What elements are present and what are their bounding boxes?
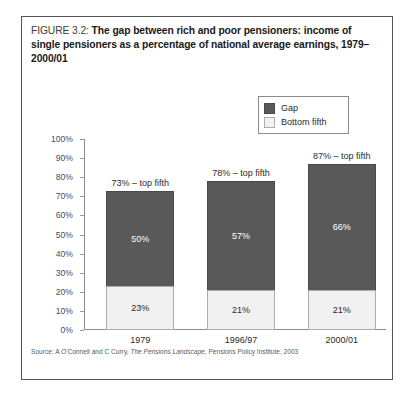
y-axis-line bbox=[84, 139, 85, 330]
y-axis-tick-label: 30% bbox=[56, 268, 73, 278]
x-axis-category-label: 2000/01 bbox=[325, 335, 358, 345]
y-axis-tick: 0% bbox=[80, 330, 84, 331]
figure-label: FIGURE 3.2: bbox=[31, 25, 89, 36]
y-axis-tick: 30% bbox=[80, 273, 84, 274]
bar-segment-value: 66% bbox=[333, 222, 351, 232]
y-axis-tick-label: 40% bbox=[56, 249, 73, 259]
y-axis-tick-label: 20% bbox=[56, 287, 73, 297]
source-publication: The Pensions Landscape bbox=[130, 348, 204, 355]
y-axis-tick: 100% bbox=[80, 139, 84, 140]
y-axis-tick-label: 80% bbox=[56, 172, 73, 182]
bar-segment-value: 23% bbox=[131, 303, 149, 313]
y-axis-tick: 40% bbox=[80, 254, 84, 255]
legend-label-bottom-fifth: Bottom fifth bbox=[281, 117, 327, 127]
chart-legend: Gap Bottom fifth bbox=[258, 96, 349, 134]
y-axis-tick: 90% bbox=[80, 158, 84, 159]
y-axis-tick-label: 70% bbox=[56, 191, 73, 201]
bar-segment-value: 21% bbox=[232, 305, 250, 315]
bar-segment-value: 21% bbox=[333, 305, 351, 315]
plot-area: 0%10%20%30%40%50%60%70%80%90%100% 50%73%… bbox=[84, 139, 386, 330]
legend-swatch-bottom-fifth bbox=[264, 117, 275, 128]
bar-segment-gap[interactable]: 66%87% – top fifth bbox=[308, 164, 376, 290]
bar-segment-bottom-fifth[interactable]: 21%1996/97 bbox=[207, 290, 275, 330]
legend-item-bottom-fifth: Bottom fifth bbox=[264, 115, 343, 129]
x-axis-category-label: 1979 bbox=[130, 335, 150, 345]
source-prefix: Source: A O'Connell and C Curry, bbox=[31, 348, 129, 355]
bar-group[interactable]: 50%73% – top fifth23%1979 bbox=[106, 191, 174, 330]
source-suffix: , Pensions Policy Institute, 2003 bbox=[205, 348, 298, 355]
bar-total-label: 78% – top fifth bbox=[212, 168, 270, 178]
x-axis-category-label: 1996/97 bbox=[225, 335, 258, 345]
bar-segment-bottom-fifth[interactable]: 23%1979 bbox=[106, 286, 174, 330]
bar-segment-value: 57% bbox=[232, 231, 250, 241]
bar-group[interactable]: 57%78% – top fifth21%1996/97 bbox=[207, 181, 275, 330]
y-axis-tick: 50% bbox=[80, 235, 84, 236]
y-axis-tick: 20% bbox=[80, 292, 84, 293]
y-axis-tick: 80% bbox=[80, 177, 84, 178]
y-axis-tick: 60% bbox=[80, 215, 84, 216]
y-axis-tick-label: 90% bbox=[56, 153, 73, 163]
y-axis-tick-label: 60% bbox=[56, 210, 73, 220]
y-axis-tick: 70% bbox=[80, 196, 84, 197]
bar-total-label: 87% – top fifth bbox=[313, 151, 371, 161]
y-axis-tick-label: 50% bbox=[56, 230, 73, 240]
bar-segment-bottom-fifth[interactable]: 21%2000/01 bbox=[308, 290, 376, 330]
y-axis-tick: 10% bbox=[80, 311, 84, 312]
legend-label-gap: Gap bbox=[281, 103, 298, 113]
legend-swatch-gap bbox=[264, 103, 275, 114]
chart-source: Source: A O'Connell and C Curry, The Pen… bbox=[31, 347, 383, 357]
bar-segment-gap[interactable]: 57%78% – top fifth bbox=[207, 181, 275, 290]
bar-total-label: 73% – top fifth bbox=[112, 178, 170, 188]
figure-frame: FIGURE 3.2: The gap between rich and poo… bbox=[21, 16, 393, 380]
y-axis-tick-label: 10% bbox=[56, 306, 73, 316]
bar-segment-gap[interactable]: 50%73% – top fifth bbox=[106, 191, 174, 287]
figure-caption: FIGURE 3.2: The gap between rich and poo… bbox=[31, 24, 379, 67]
bar-segment-value: 50% bbox=[131, 234, 149, 244]
legend-item-gap: Gap bbox=[264, 101, 343, 115]
bar-group[interactable]: 66%87% – top fifth21%2000/01 bbox=[308, 164, 376, 330]
y-axis-tick-label: 100% bbox=[51, 134, 73, 144]
y-axis-tick-label: 0% bbox=[61, 325, 73, 335]
